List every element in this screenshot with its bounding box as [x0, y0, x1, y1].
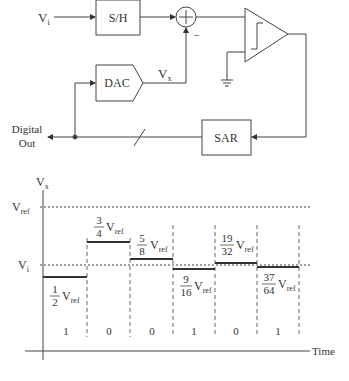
step-label-3: 5 8 Vref — [137, 232, 168, 257]
bit-6: 1 — [275, 325, 281, 337]
bit-4: 1 — [191, 325, 197, 337]
comparator-to-sar-wire — [252, 34, 306, 137]
svg-text:37: 37 — [264, 271, 276, 283]
svg-text:19: 19 — [222, 232, 234, 244]
dac-label: DAC — [104, 76, 129, 90]
sar-label: SAR — [214, 131, 237, 145]
output-bits: 1 0 0 1 0 1 — [63, 325, 281, 337]
svg-text:5: 5 — [139, 232, 145, 244]
svg-text:Vref: Vref — [236, 238, 254, 254]
svg-text:2: 2 — [52, 296, 58, 308]
svg-text:4: 4 — [96, 227, 102, 239]
sample-hold-label: S/H — [109, 11, 128, 25]
bit-5: 0 — [233, 325, 239, 337]
vi-label: Vi — [18, 258, 30, 274]
digital-out-label-2: Out — [19, 137, 36, 149]
comparator-step-icon — [251, 23, 263, 49]
svg-text:64: 64 — [264, 284, 276, 296]
vref-label: Vref — [12, 200, 30, 216]
svg-text:32: 32 — [222, 245, 233, 257]
sar-adc-figure: Vi S/H – DAC Vx SAR Digi — [0, 0, 349, 381]
svg-text:1: 1 — [52, 283, 58, 295]
bit-3: 0 — [149, 325, 155, 337]
input-label-vi: Vi — [38, 10, 50, 27]
svg-text:9: 9 — [183, 273, 189, 285]
svg-text:Vref: Vref — [278, 277, 296, 293]
vx-label: Vx — [158, 66, 171, 83]
x-axis-label: Time — [312, 345, 335, 357]
svg-text:Vref: Vref — [106, 220, 124, 236]
svg-text:3: 3 — [96, 214, 102, 226]
svg-text:Vref: Vref — [150, 238, 168, 254]
summer-minus-sign: – — [193, 29, 200, 40]
svg-text:Vref: Vref — [194, 279, 212, 295]
bus-to-dac-wire — [75, 83, 95, 137]
bit-2: 0 — [106, 325, 112, 337]
step-label-1: 1 2 Vref — [50, 283, 80, 308]
bit-1: 1 — [63, 325, 69, 337]
step-label-2: 3 4 Vref — [94, 214, 124, 239]
step-label-6: 37 64 Vref — [262, 271, 296, 296]
svg-text:8: 8 — [139, 245, 145, 257]
dac-step-levels — [43, 242, 299, 277]
svg-text:Vref: Vref — [62, 289, 80, 305]
step-label-5: 19 32 Vref — [220, 232, 254, 257]
svg-text:16: 16 — [181, 286, 193, 298]
conversion-chart: Vx Time Vref Vi — [12, 175, 335, 360]
comparator-triangle — [245, 8, 288, 62]
ground-icon — [221, 80, 233, 86]
comparator-ground-wire — [227, 52, 245, 80]
block-diagram: Vi S/H – DAC Vx SAR Digi — [12, 0, 306, 155]
step-label-4: 9 16 Vref — [180, 273, 212, 298]
y-axis-label: Vx — [36, 175, 49, 191]
digital-out-label-1: Digital — [12, 123, 43, 135]
